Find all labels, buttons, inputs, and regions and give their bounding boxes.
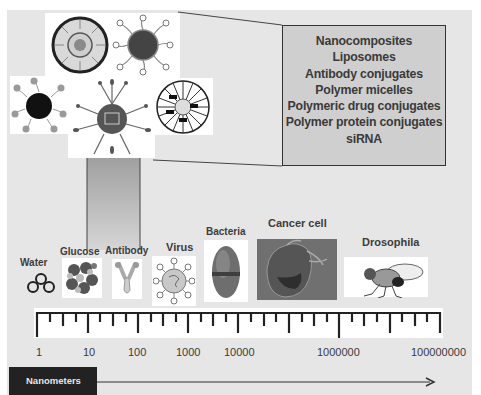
- tick-label-10000: 10000: [224, 346, 255, 358]
- tick-label-1000: 1000: [176, 346, 200, 358]
- tick-label-1: 1: [36, 346, 42, 358]
- unit-label-nanometers: Nanometers: [9, 367, 97, 395]
- tick-label-1000000: 1000000: [317, 346, 360, 358]
- tick-label-10: 10: [83, 346, 95, 358]
- tick-label-100: 100: [128, 346, 146, 358]
- log-scale-ruler: [0, 0, 481, 395]
- tick-label-100000000: 100000000: [411, 346, 466, 358]
